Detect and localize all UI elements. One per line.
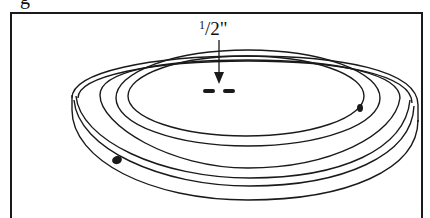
disc-drawing [0, 0, 430, 218]
top-face-edge [100, 60, 400, 168]
center-slot-right [223, 89, 235, 93]
dimension-arrowhead [214, 72, 224, 84]
center-slot-left [203, 89, 215, 93]
side-groove-lower [74, 100, 414, 186]
rim-notch-right [357, 104, 363, 112]
outer-rim [72, 56, 418, 105]
inner-ellipse-inner [128, 56, 364, 136]
inner-ellipse-outer [116, 50, 380, 146]
